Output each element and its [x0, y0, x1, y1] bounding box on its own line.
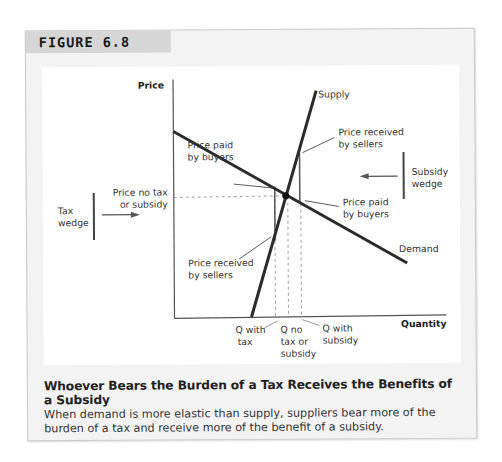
tax-paid-buyers-label-2: by buyers — [187, 151, 233, 162]
arrow-right-icon — [131, 212, 140, 218]
q-subsidy-guide — [301, 204, 302, 317]
caption-body: When demand is more elastic than supply,… — [44, 406, 464, 437]
equilibrium-price-guide — [174, 196, 286, 198]
q-tax-leader — [265, 321, 278, 328]
tax-recv-sellers-label: Price received — [188, 257, 254, 268]
q-tax-label-2: tax — [238, 336, 253, 347]
q-none-label: Q no — [281, 324, 303, 335]
q-none-label-3: subsidy — [281, 348, 317, 359]
q-sub-label-2: subsidy — [323, 334, 359, 345]
tax-paid-buyers-label: Price paid — [187, 139, 233, 150]
q-sub-leader — [303, 320, 320, 326]
subsidy-wedge-label: Subsidy — [412, 166, 449, 177]
price-no-tax-label: Price no tax — [113, 187, 169, 198]
sub-paid-buyers-label-2: by buyers — [343, 208, 389, 219]
sub-recv-sellers-label: Price received — [338, 126, 404, 137]
subsidy-wedge-label-2: wedge — [412, 178, 443, 189]
q-none-guide — [288, 197, 289, 317]
q-none-label-2: tax or — [281, 336, 309, 347]
chart-area: Price Quantity Supply Demand Price paid … — [42, 65, 461, 366]
tax-wedge-label: Tax — [57, 205, 74, 216]
quantity-axis-label: Quantity — [401, 318, 447, 329]
equilibrium-point — [282, 192, 289, 199]
figure-caption: Whoever Bears the Burden of a Tax Receiv… — [44, 377, 464, 437]
sub-recv-sellers-leader — [302, 137, 334, 152]
sub-paid-buyers-label: Price paid — [343, 196, 389, 207]
caption-title: Whoever Bears the Burden of a Tax Receiv… — [44, 377, 464, 408]
q-tax-label: Q with — [236, 324, 266, 335]
supply-label: Supply — [318, 88, 350, 99]
supply-curve — [250, 91, 317, 317]
arrow-left-icon — [360, 173, 369, 179]
y-axis — [173, 79, 174, 318]
tax-recv-sellers-leader — [239, 237, 271, 259]
q-sub-label: Q with — [323, 322, 353, 333]
price-axis-label: Price — [138, 80, 164, 91]
sub-recv-sellers-label-2: by sellers — [338, 138, 383, 149]
sub-paid-buyers-leader — [305, 200, 339, 206]
demand-label: Demand — [399, 243, 439, 254]
tax-recv-sellers-label-2: by sellers — [188, 269, 233, 280]
tax-wedge-label-2: wedge — [58, 217, 89, 228]
figure-card: FIGURE 6.8 Price Quantity Supply Demand … — [25, 28, 478, 442]
price-no-tax-label-2: or subsidy — [120, 199, 168, 210]
